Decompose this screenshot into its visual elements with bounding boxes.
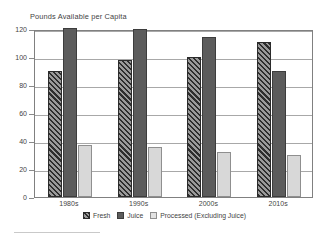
bar-fresh-2010s <box>257 42 271 197</box>
y-axis-tick-label: 120 <box>15 26 27 33</box>
bar-juice-2010s <box>272 71 286 197</box>
footer-divider <box>14 232 100 233</box>
bar-group-2010s <box>244 31 314 197</box>
legend-label: Fresh <box>93 212 110 219</box>
y-axis-tick-label: 100 <box>15 54 27 61</box>
bar-fresh-2000s <box>187 57 201 197</box>
bar-processed-1990s <box>148 147 162 197</box>
y-axis-tick-label: 0 <box>23 194 27 201</box>
y-axis-tick-label: 60 <box>19 110 27 117</box>
legend-swatch-fresh-icon <box>83 212 90 219</box>
bar-processed-1980s <box>78 145 92 197</box>
bar-juice-2000s <box>202 37 216 197</box>
legend-label: Processed (Excluding Juice) <box>160 212 246 219</box>
y-axis: 020406080100120 <box>0 30 34 198</box>
x-axis-tick-label: 2000s <box>199 200 218 207</box>
y-axis-tick-label: 20 <box>19 166 27 173</box>
bar-chart-figure: Pounds Available per Capita 020406080100… <box>0 0 329 240</box>
bar-juice-1990s <box>133 29 147 197</box>
bar-processed-2000s <box>217 152 231 197</box>
bar-fresh-1990s <box>118 60 132 197</box>
bar-fresh-1980s <box>48 71 62 197</box>
legend-swatch-processed-icon <box>150 212 157 219</box>
bars-layer <box>35 31 312 197</box>
bar-juice-1980s <box>63 28 77 197</box>
bar-group-2000s <box>175 31 245 197</box>
x-axis-tick-label: 2010s <box>269 200 288 207</box>
plot-area <box>34 30 313 198</box>
x-axis: 1980s1990s2000s2010s <box>34 199 313 213</box>
x-axis-tick-label: 1990s <box>129 200 148 207</box>
legend-item-fresh[interactable]: Fresh <box>83 212 110 219</box>
legend-item-processed[interactable]: Processed (Excluding Juice) <box>150 212 246 219</box>
bar-group-1990s <box>105 31 175 197</box>
bar-group-1980s <box>35 31 105 197</box>
legend-swatch-juice-icon <box>117 212 124 219</box>
bar-processed-2010s <box>287 155 301 197</box>
x-axis-tick-label: 1980s <box>59 200 78 207</box>
legend-label: Juice <box>127 212 143 219</box>
chart-title: Pounds Available per Capita <box>30 12 127 21</box>
y-axis-tick-label: 40 <box>19 138 27 145</box>
legend-item-juice[interactable]: Juice <box>117 212 143 219</box>
chart-legend: FreshJuiceProcessed (Excluding Juice) <box>0 212 329 219</box>
y-axis-tick-label: 80 <box>19 82 27 89</box>
